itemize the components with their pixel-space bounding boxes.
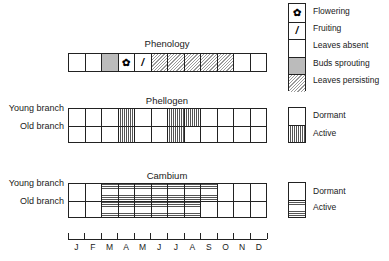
legend-swatch-leaves-persisting (289, 74, 305, 92)
axis-tick (217, 233, 218, 239)
phellogen-old-cell-6 (151, 127, 168, 143)
phellogen-young-row (69, 109, 266, 126)
phellogen-young-cell-7 (167, 109, 184, 126)
cambium-legend-box (288, 182, 306, 218)
cambium-young-cell-12 (250, 184, 267, 201)
cambium-old-cell-1 (69, 202, 85, 218)
phenology-cell-10 (217, 54, 234, 71)
legend-swatch-flowering: ✿ (289, 4, 305, 22)
month-label: J (68, 242, 84, 252)
phellogen-young-cell-3 (101, 109, 118, 126)
cambium-old-cell-5 (134, 202, 151, 218)
phenology-cell-8 (184, 54, 201, 71)
month-label: M (135, 242, 151, 252)
legend-swatch-active-horizontal (289, 200, 305, 217)
cambium-old-cell-4 (118, 202, 135, 218)
phellogen-old-cell-5 (134, 127, 151, 143)
phellogen-old-cell-3 (101, 127, 118, 143)
phenology-legend-box: ✿ / (288, 3, 306, 91)
phellogen-young-cell-2 (85, 109, 102, 126)
phenology-title: Phenology (67, 38, 267, 49)
legend-swatch-leaves-absent (289, 39, 305, 57)
month-label: F (85, 242, 101, 252)
phenology-cell-5: / (134, 54, 151, 71)
month-label: O (218, 242, 234, 252)
phellogen-legend-dormant: Dormant (313, 110, 346, 120)
phenology-cell-2 (85, 54, 102, 71)
month-label: A (184, 242, 200, 252)
cambium-young-cell-11 (233, 184, 250, 201)
axis-tick (68, 233, 69, 239)
fruit-icon: / (296, 26, 299, 36)
phellogen-title: Phellogen (67, 95, 267, 106)
cambium-title: Cambium (67, 170, 267, 181)
cambium-old-cell-11 (233, 202, 250, 218)
phellogen-old-cell-12 (250, 127, 267, 143)
phellogen-young-cell-12 (250, 109, 267, 126)
month-label: M (101, 242, 117, 252)
legend-label-leaves-absent: Leaves absent (313, 40, 368, 50)
month-label: N (234, 242, 250, 252)
phenology-cell-3 (101, 54, 118, 71)
phellogen-old-row (69, 126, 266, 143)
phellogen-old-cell-9 (200, 127, 217, 143)
month-label: D (251, 242, 267, 252)
phellogen-old-cell-11 (233, 127, 250, 143)
axis-tick (267, 233, 268, 239)
phenology-cell-1 (69, 54, 85, 71)
phellogen-young-cell-8 (184, 109, 201, 126)
legend-swatch-active-vertical (289, 125, 305, 142)
cambium-old-cell-2 (85, 202, 102, 218)
cambium-old-cell-10 (217, 202, 234, 218)
phellogen-legend-active: Active (313, 128, 336, 138)
phellogen-young-cell-11 (233, 109, 250, 126)
cambium-young-cell-8 (184, 184, 201, 201)
axis-tick (184, 233, 185, 239)
fruit-icon: / (141, 58, 144, 68)
phenology-cell-4: ✿ (118, 54, 135, 71)
axis-tick (101, 233, 102, 239)
legend-label-buds-sprouting: Buds sprouting (313, 58, 370, 68)
cambium-young-cell-4 (118, 184, 135, 201)
axis-tick (84, 233, 85, 239)
month-axis (68, 233, 267, 240)
cambium-young-cell-5 (134, 184, 151, 201)
cambium-old-row (69, 201, 266, 218)
axis-tick (167, 233, 168, 239)
cambium-old-cell-3 (101, 202, 118, 218)
phellogen-young-cell-9 (200, 109, 217, 126)
cambium-old-cell-9 (200, 202, 217, 218)
legend-label-flowering: Flowering (313, 6, 350, 16)
cambium-old-cell-8 (184, 202, 201, 218)
phenology-row: ✿/ (69, 54, 266, 71)
phenology-cell-12 (250, 54, 267, 71)
legend-swatch-dormant (289, 108, 305, 125)
phellogen-old-cell-1 (69, 127, 85, 143)
phellogen-young-cell-10 (217, 109, 234, 126)
phellogen-row-label-old: Old branch (0, 121, 64, 131)
cambium-young-cell-3 (101, 184, 118, 201)
phellogen-old-cell-4 (118, 127, 135, 143)
month-label: S (201, 242, 217, 252)
phellogen-young-cell-6 (151, 109, 168, 126)
phenology-cell-9 (200, 54, 217, 71)
axis-tick (150, 233, 151, 239)
legend-label-fruiting: Fruiting (313, 23, 341, 33)
legend-swatch-dormant (289, 183, 305, 200)
axis-tick (250, 233, 251, 239)
cambium-old-cell-6 (151, 202, 168, 218)
phenology-cell-6 (151, 54, 168, 71)
axis-tick (233, 233, 234, 239)
phellogen-old-cell-7 (167, 127, 184, 143)
phellogen-legend-box (288, 107, 306, 143)
cambium-legend-dormant: Dormant (313, 186, 346, 196)
legend-swatch-buds-sprouting (289, 57, 305, 75)
phellogen-old-cell-8 (184, 127, 201, 143)
axis-tick (117, 233, 118, 239)
cambium-young-cell-10 (217, 184, 234, 201)
cambium-row-label-young: Young branch (0, 178, 64, 188)
phellogen-young-cell-4 (118, 109, 135, 126)
cambium-young-cell-9 (200, 184, 217, 201)
phenology-cell-7 (167, 54, 184, 71)
flower-icon: ✿ (293, 8, 301, 18)
